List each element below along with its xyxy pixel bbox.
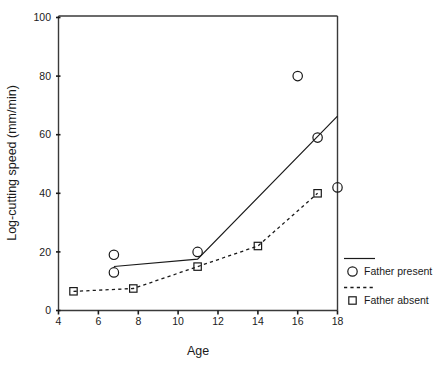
data-point-circle-age7-low <box>109 268 118 277</box>
data-point-square-age11 <box>194 263 201 270</box>
y-axis-tick-labels: 0 20 40 60 80 100 <box>33 11 51 316</box>
x-tick-label-12: 12 <box>212 315 224 327</box>
x-tick-label-18: 18 <box>332 315 344 327</box>
series-markers-father-present <box>109 71 342 277</box>
chart-legend: Father present Father absent <box>344 259 432 307</box>
x-axis-title: Age <box>187 344 209 358</box>
x-tick-label-8: 8 <box>135 315 141 327</box>
data-point-circle-age17 <box>313 133 322 142</box>
series-line-father-absent <box>74 193 318 291</box>
data-point-circle-age11 <box>193 247 202 256</box>
data-point-circle-age7-high <box>109 250 118 259</box>
x-tick-label-4: 4 <box>56 315 62 327</box>
data-point-circle-age16 <box>293 71 302 80</box>
y-tick-label-60: 60 <box>39 128 51 140</box>
legend-item-father-absent[interactable]: Father absent <box>344 288 429 307</box>
x-tick-label-6: 6 <box>95 315 101 327</box>
chart-svg: 0 20 40 60 80 100 4 6 8 10 12 14 16 <box>0 0 445 375</box>
legend-item-father-present[interactable]: Father present <box>344 259 432 278</box>
legend-label-father-absent: Father absent <box>364 294 429 306</box>
y-tick-label-100: 100 <box>33 11 51 23</box>
x-tick-label-16: 16 <box>292 315 304 327</box>
legend-circle-icon <box>348 267 357 276</box>
legend-label-father-present: Father present <box>364 265 432 277</box>
chart-figure: 0 20 40 60 80 100 4 6 8 10 12 14 16 <box>0 0 445 375</box>
x-tick-label-14: 14 <box>252 315 264 327</box>
y-tick-label-80: 80 <box>39 70 51 82</box>
y-tick-label-40: 40 <box>39 187 51 199</box>
series-line-father-present <box>114 116 338 266</box>
legend-square-icon <box>349 297 356 304</box>
x-axis-tick-labels: 4 6 8 10 12 14 16 18 <box>56 315 344 327</box>
y-tick-label-0: 0 <box>45 304 51 316</box>
y-axis-title: Log-cutting speed (mm/min) <box>5 85 19 241</box>
series-markers-father-absent <box>70 190 321 295</box>
x-tick-label-10: 10 <box>172 315 184 327</box>
y-tick-label-20: 20 <box>39 246 51 258</box>
